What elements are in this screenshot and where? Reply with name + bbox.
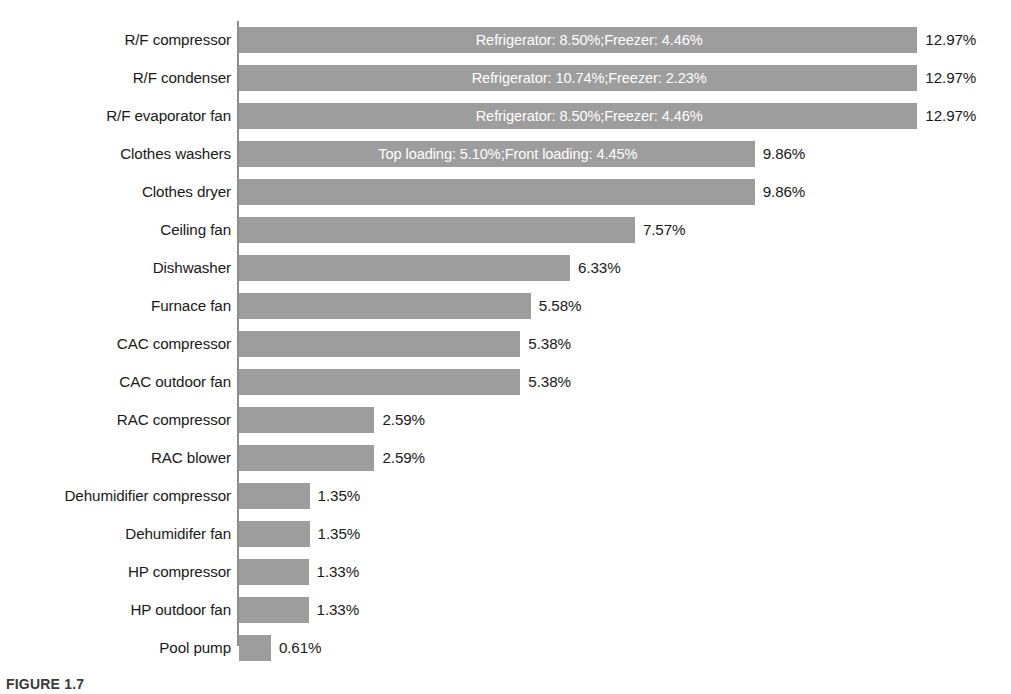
bar-value-label: 1.33% (317, 597, 360, 623)
bar-breakdown-label: Refrigerator: 8.50%;Freezer: 4.46% (265, 27, 913, 53)
bar-row: Dehumidifer fan1.35% (0, 515, 1011, 553)
bar (239, 483, 310, 509)
bar (239, 635, 271, 661)
category-axis-label: Clothes washers (0, 135, 231, 173)
category-axis-label: RAC compressor (0, 401, 231, 439)
bar-row: CAC compressor5.38% (0, 325, 1011, 363)
bar-track: 1.35% (239, 515, 1011, 553)
bar (239, 255, 570, 281)
bar-breakdown-label: Refrigerator: 8.50%;Freezer: 4.46% (265, 103, 913, 129)
bar-row: HP outdoor fan1.33% (0, 591, 1011, 629)
bar-track: 2.59% (239, 401, 1011, 439)
bar-row: Ceiling fan7.57% (0, 211, 1011, 249)
bar-track: Top loading: 5.10%;Front loading: 4.45%9… (239, 135, 1011, 173)
bar-value-label: 9.86% (763, 141, 806, 167)
category-axis-label: R/F evaporator fan (0, 97, 231, 135)
category-axis-label: Pool pump (0, 629, 231, 667)
bar (239, 217, 635, 243)
bar-row: CAC outdoor fan5.38% (0, 363, 1011, 401)
figure-caption: FIGURE 1.7 (6, 676, 84, 692)
category-axis-label: HP compressor (0, 553, 231, 591)
bar-value-label: 6.33% (578, 255, 621, 281)
bar-track: Refrigerator: 8.50%;Freezer: 4.46%12.97% (239, 21, 1011, 59)
bar (239, 293, 531, 319)
bar-row: Clothes dryer9.86% (0, 173, 1011, 211)
bar (239, 559, 309, 585)
bar-row: R/F compressorRefrigerator: 8.50%;Freeze… (0, 21, 1011, 59)
bar-track: 5.38% (239, 325, 1011, 363)
category-axis-label: R/F condenser (0, 59, 231, 97)
bar-breakdown-label: Top loading: 5.10%;Front loading: 4.45% (265, 141, 751, 167)
bar-track: 9.86% (239, 173, 1011, 211)
bar-track: Refrigerator: 8.50%;Freezer: 4.46%12.97% (239, 97, 1011, 135)
bar (239, 521, 310, 547)
bar (239, 369, 520, 395)
category-axis-label: Dehumidifer fan (0, 515, 231, 553)
bar-row: Dehumidifier compressor1.35% (0, 477, 1011, 515)
bar-value-label: 12.97% (925, 65, 976, 91)
bar-value-label: 12.97% (925, 27, 976, 53)
bar-value-label: 12.97% (925, 103, 976, 129)
bar-row: Pool pump0.61% (0, 629, 1011, 667)
bar (239, 331, 520, 357)
bar-track: 2.59% (239, 439, 1011, 477)
bar (239, 407, 374, 433)
category-axis-label: HP outdoor fan (0, 591, 231, 629)
bar-row: R/F condenserRefrigerator: 10.74%;Freeze… (0, 59, 1011, 97)
bar (239, 179, 755, 205)
bar-value-label: 7.57% (643, 217, 686, 243)
bar-row: Clothes washersTop loading: 5.10%;Front … (0, 135, 1011, 173)
bar-value-label: 5.38% (528, 331, 571, 357)
bar-track: 1.33% (239, 591, 1011, 629)
bar-value-label: 1.35% (318, 521, 361, 547)
category-axis-label: Dishwasher (0, 249, 231, 287)
bar-value-label: 0.61% (279, 635, 322, 661)
bar-track: 1.33% (239, 553, 1011, 591)
category-axis-label: Dehumidifier compressor (0, 477, 231, 515)
category-axis-label: Furnace fan (0, 287, 231, 325)
bar-value-label: 1.33% (317, 559, 360, 585)
bar-row: Dishwasher6.33% (0, 249, 1011, 287)
bar-track: 6.33% (239, 249, 1011, 287)
bar-value-label: 1.35% (318, 483, 361, 509)
bar-value-label: 9.86% (763, 179, 806, 205)
bar-value-label: 5.38% (528, 369, 571, 395)
bar-chart-figure: R/F compressorRefrigerator: 8.50%;Freeze… (0, 0, 1011, 694)
bar-row: R/F evaporator fanRefrigerator: 8.50%;Fr… (0, 97, 1011, 135)
bar-breakdown-label: Refrigerator: 10.74%;Freezer: 2.23% (265, 65, 913, 91)
plot-area: R/F compressorRefrigerator: 8.50%;Freeze… (0, 21, 1011, 646)
bar-value-label: 5.58% (539, 293, 582, 319)
bar (239, 597, 309, 623)
category-axis-label: Ceiling fan (0, 211, 231, 249)
bar-value-label: 2.59% (382, 445, 425, 471)
bar-track: 1.35% (239, 477, 1011, 515)
bar-row: RAC compressor2.59% (0, 401, 1011, 439)
bar-row: Furnace fan5.58% (0, 287, 1011, 325)
category-axis-label: R/F compressor (0, 21, 231, 59)
bar (239, 445, 374, 471)
category-axis-label: CAC outdoor fan (0, 363, 231, 401)
bar-row: HP compressor1.33% (0, 553, 1011, 591)
bar-value-label: 2.59% (382, 407, 425, 433)
bar-row: RAC blower2.59% (0, 439, 1011, 477)
bar-track: Refrigerator: 10.74%;Freezer: 2.23%12.97… (239, 59, 1011, 97)
category-axis-label: RAC blower (0, 439, 231, 477)
bar-track: 7.57% (239, 211, 1011, 249)
category-axis-label: CAC compressor (0, 325, 231, 363)
bar-track: 0.61% (239, 629, 1011, 667)
bar-track: 5.58% (239, 287, 1011, 325)
bar-track: 5.38% (239, 363, 1011, 401)
category-axis-label: Clothes dryer (0, 173, 231, 211)
